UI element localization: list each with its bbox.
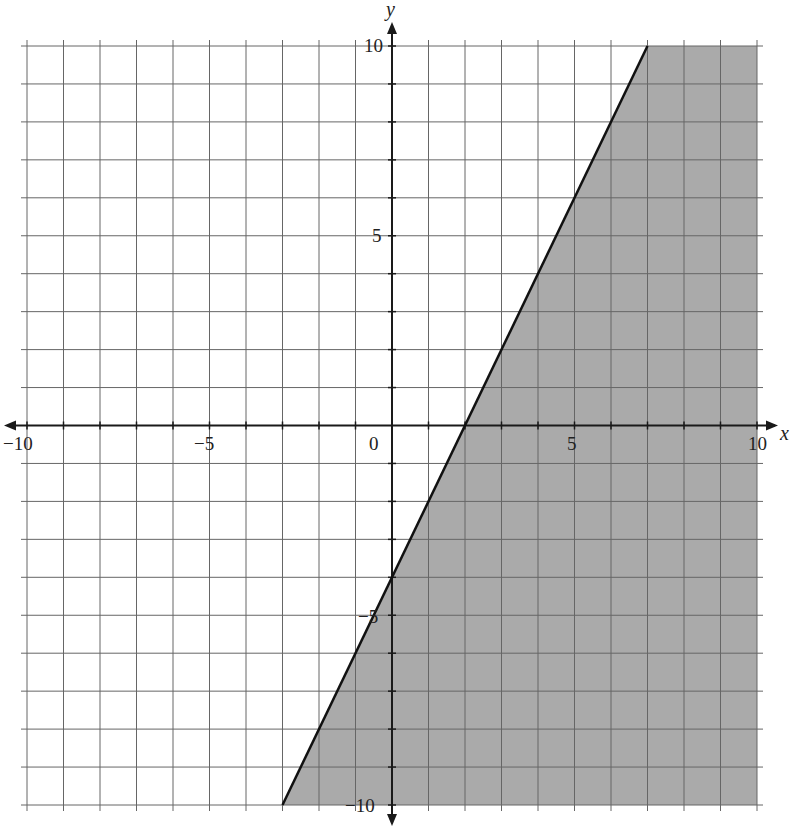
y-tick-label-neg5: −5 (358, 606, 378, 627)
y-axis-label: y (384, 0, 395, 21)
y-tick-label-5: 5 (372, 225, 382, 246)
x-axis-arrow-left-icon (4, 421, 16, 431)
x-tick-label-neg5: −5 (194, 433, 214, 454)
coordinate-plane: −10 −5 0 5 10 10 5 −5 −10 x y (0, 0, 795, 832)
y-axis-arrow-down-icon (387, 814, 397, 826)
origin-label: 0 (369, 433, 379, 454)
x-tick-label-10: 10 (748, 433, 767, 454)
y-tick-label-neg10: −10 (345, 795, 375, 816)
x-axis-label: x (779, 422, 789, 444)
y-axis-arrow-up-icon (387, 22, 397, 34)
x-axis-arrow-right-icon (766, 421, 778, 431)
y-tick-label-10: 10 (364, 35, 383, 56)
x-tick-label-5: 5 (567, 433, 577, 454)
x-tick-label-neg10: −10 (3, 433, 33, 454)
